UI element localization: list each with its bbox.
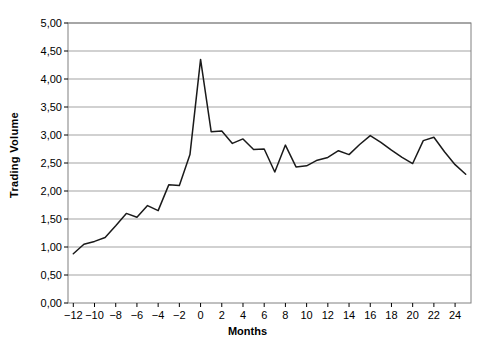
- y-tick-label: 2,50: [28, 157, 62, 169]
- y-tick-label: 4,00: [28, 73, 62, 85]
- y-tick-label: 1,50: [28, 213, 62, 225]
- x-tick-label: 24: [449, 309, 461, 321]
- x-tick-label: −2: [173, 309, 186, 321]
- y-tick-label: 2,00: [28, 185, 62, 197]
- y-tick-label: 5,00: [28, 17, 62, 29]
- x-tick-label: −6: [131, 309, 144, 321]
- x-tick-label: −4: [152, 309, 165, 321]
- x-tick-label: 22: [428, 309, 440, 321]
- x-tick-label: 16: [364, 309, 376, 321]
- x-tick-label: 12: [322, 309, 334, 321]
- y-axis-title: Trading Volume: [2, 0, 26, 310]
- y-tick-label: 1,00: [28, 241, 62, 253]
- x-tick-label: 8: [282, 309, 288, 321]
- chart-container: Trading Volume 0,000,501,001,502,002,503…: [0, 0, 495, 344]
- x-tick-label: 2: [219, 309, 225, 321]
- x-tick-label: 6: [261, 309, 267, 321]
- x-tick-label: 10: [300, 309, 312, 321]
- x-tick-label: 0: [198, 309, 204, 321]
- plot-area: [0, 0, 495, 344]
- x-tick-label: 14: [343, 309, 355, 321]
- x-tick-label: 18: [385, 309, 397, 321]
- x-tick-label: −10: [85, 309, 104, 321]
- axis-tick-marks: [64, 23, 455, 307]
- x-axis-title: Months: [0, 325, 495, 337]
- y-tick-label: 4,50: [28, 45, 62, 57]
- y-tick-label: 3,00: [28, 129, 62, 141]
- x-tick-label: 20: [407, 309, 419, 321]
- x-tick-label: −12: [64, 309, 83, 321]
- x-tick-label: −8: [109, 309, 122, 321]
- y-tick-label: 0,50: [28, 269, 62, 281]
- x-tick-label: 4: [240, 309, 246, 321]
- y-tick-label: 0,00: [28, 297, 62, 309]
- y-tick-label: 3,50: [28, 101, 62, 113]
- data-series-line: [73, 59, 465, 253]
- y-axis-title-text: Trading Volume: [8, 112, 20, 198]
- gridlines: [68, 23, 471, 275]
